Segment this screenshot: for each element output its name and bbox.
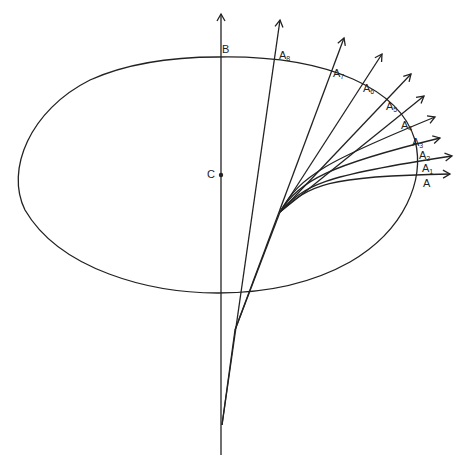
center-point-c [219, 173, 223, 177]
label-a7: A7 [333, 68, 344, 80]
label-a6: A6 [363, 83, 374, 95]
label-c: C [207, 169, 215, 180]
label-a2: A2 [419, 150, 430, 162]
label-a5: A5 [386, 101, 397, 113]
diagram-canvas [0, 0, 467, 467]
label-a3: A3 [412, 137, 423, 149]
label-a4: A4 [401, 120, 412, 132]
label-a8: A8 [279, 50, 290, 62]
ray-a5-arrow [280, 74, 411, 212]
ray-to-fan [235, 212, 280, 330]
label-b: B [222, 44, 229, 55]
ray-base [222, 330, 235, 425]
ray-a6-arrow [280, 54, 382, 212]
label-a1: A1 [422, 163, 433, 175]
ellipse-diagram: B C A8 A7 A6 A5 A4 A3 A2 A1 A [0, 0, 467, 467]
label-a: A [423, 178, 430, 189]
